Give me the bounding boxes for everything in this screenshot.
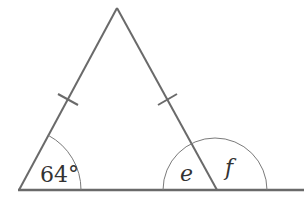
tick-mark-left [58,94,78,105]
angle-label-64: 64° [40,162,79,187]
tick-mark-right [158,94,177,105]
triangle-diagram: 64° e f [0,0,304,207]
angle-label-f: f [223,155,237,180]
angle-label-e: e [180,161,193,186]
angle-arc-e-f [163,138,267,190]
